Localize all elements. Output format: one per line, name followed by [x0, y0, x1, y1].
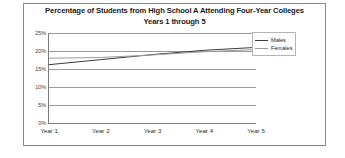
- chart-title: Percentage of Students from High School …: [27, 6, 322, 27]
- series-line-males: [49, 47, 256, 64]
- legend-label-females: Females: [271, 45, 292, 51]
- y-tick-label: 10%: [35, 84, 46, 90]
- legend-swatch-males-icon: [255, 40, 268, 41]
- legend-item-males: Males: [255, 36, 292, 44]
- y-tick-label: 20%: [35, 48, 46, 54]
- x-tick-label: Year 5: [247, 127, 265, 134]
- x-tick-label: Year 2: [92, 127, 110, 134]
- series-lines: [49, 33, 256, 123]
- y-tick-label: 0%: [38, 120, 46, 126]
- chart-title-line-2: Years 1 through 5: [27, 17, 322, 28]
- chart-legend: Males Females: [252, 32, 296, 56]
- legend-swatch-females-icon: [255, 48, 268, 49]
- x-tick-label: Year 1: [40, 127, 58, 134]
- y-tick-label: 25%: [35, 30, 46, 36]
- chart-screenshot: Percentage of Students from High School …: [0, 0, 345, 158]
- series-line-females: [49, 50, 256, 59]
- plot-area: 0%5%10%15%20%25% Year 1Year 2Year 3Year …: [48, 33, 256, 124]
- x-tick-label: Year 3: [144, 127, 162, 134]
- legend-item-females: Females: [255, 44, 292, 52]
- y-tick-label: 15%: [35, 66, 46, 72]
- legend-label-males: Males: [271, 37, 286, 43]
- x-tick-label: Year 4: [195, 127, 213, 134]
- y-tick-label: 5%: [38, 102, 46, 108]
- chart-title-line-1: Percentage of Students from High School …: [27, 6, 322, 17]
